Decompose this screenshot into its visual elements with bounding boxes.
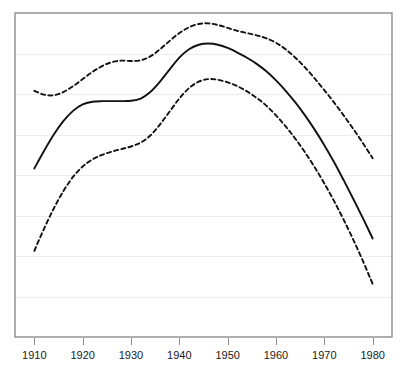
x-tick-label-1940: 1940 [167,349,191,361]
line-chart: 19101920193019401950196019701980 [0,0,407,380]
x-tick-label-1970: 1970 [312,349,336,361]
chart-container: 19101920193019401950196019701980 [0,0,407,380]
x-tick-label-1920: 1920 [70,349,94,361]
x-tick-label-1960: 1960 [264,349,288,361]
x-tick-label-1950: 1950 [215,349,239,361]
x-tick-label-1980: 1980 [360,349,384,361]
x-tick-label-1910: 1910 [22,349,46,361]
x-tick-label-1930: 1930 [119,349,143,361]
